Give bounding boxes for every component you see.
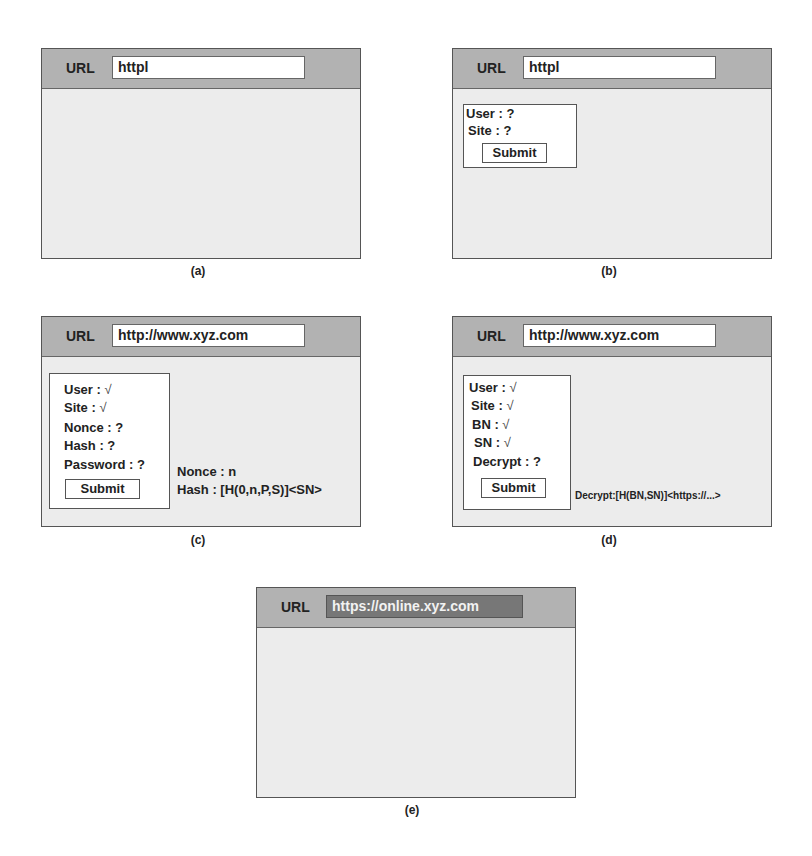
browser-window-c: URL http://www.xyz.com User : √ Site : √… — [41, 316, 361, 527]
browser-window-b: URL httpl User : ? Site : ? Submit — [452, 48, 772, 259]
address-bar: URL httpl — [453, 49, 771, 89]
url-label: URL — [66, 328, 95, 344]
submit-button[interactable]: Submit — [65, 479, 140, 499]
url-label: URL — [477, 60, 506, 76]
url-input[interactable]: httpl — [112, 56, 305, 79]
nonce-note: Nonce : n — [177, 464, 236, 479]
form-field-user: User : √ — [64, 382, 112, 397]
decrypt-note: Decrypt:[H(BN,SN)]<https://...> — [575, 490, 721, 501]
browser-window-a: URL httpl — [41, 48, 361, 259]
login-form: User : √ Site : √ Nonce : ? Hash : ? Pas… — [49, 373, 170, 509]
form-field-password: Password : ? — [64, 457, 145, 472]
submit-button[interactable]: Submit — [481, 478, 546, 498]
url-input[interactable]: http://www.xyz.com — [523, 324, 716, 347]
form-field-user: User : ? — [466, 106, 514, 121]
check-icon: √ — [504, 435, 511, 450]
check-icon: √ — [104, 382, 111, 397]
url-label: URL — [281, 599, 310, 615]
url-label: URL — [66, 60, 95, 76]
address-bar: URL https://online.xyz.com — [257, 588, 575, 628]
check-icon: √ — [99, 400, 106, 415]
form-field-nonce: Nonce : ? — [64, 420, 123, 435]
url-input[interactable]: http://www.xyz.com — [112, 324, 305, 347]
form-field-site: Site : ? — [468, 123, 511, 138]
form-field-user: User : √ — [469, 380, 517, 395]
url-input-secure[interactable]: https://online.xyz.com — [326, 595, 523, 618]
address-bar: URL http://www.xyz.com — [453, 317, 771, 357]
check-icon: √ — [502, 417, 509, 432]
submit-button[interactable]: Submit — [482, 143, 547, 163]
check-icon: √ — [509, 380, 516, 395]
browser-window-e: URL https://online.xyz.com — [256, 587, 576, 798]
form-field-site: Site : √ — [64, 400, 107, 415]
browser-window-d: URL http://www.xyz.com User : √ Site : √… — [452, 316, 772, 527]
url-label: URL — [477, 328, 506, 344]
caption-c: (c) — [178, 533, 218, 547]
form-field-sn: SN : √ — [474, 435, 511, 450]
caption-e: (e) — [392, 803, 432, 817]
caption-d: (d) — [589, 533, 629, 547]
hash-note: Hash : [H(0,n,P,S)]<SN> — [177, 482, 322, 497]
login-form: User : ? Site : ? Submit — [463, 104, 577, 168]
form-field-decrypt: Decrypt : ? — [473, 454, 541, 469]
caption-b: (b) — [589, 264, 629, 278]
form-field-hash: Hash : ? — [64, 438, 115, 453]
url-input[interactable]: httpl — [523, 56, 716, 79]
form-field-bn: BN : √ — [472, 417, 509, 432]
caption-a: (a) — [178, 264, 218, 278]
login-form: User : √ Site : √ BN : √ SN : √ Decrypt … — [463, 375, 571, 510]
check-icon: √ — [506, 398, 513, 413]
form-field-site: Site : √ — [471, 398, 514, 413]
address-bar: URL http://www.xyz.com — [42, 317, 360, 357]
address-bar: URL httpl — [42, 49, 360, 89]
